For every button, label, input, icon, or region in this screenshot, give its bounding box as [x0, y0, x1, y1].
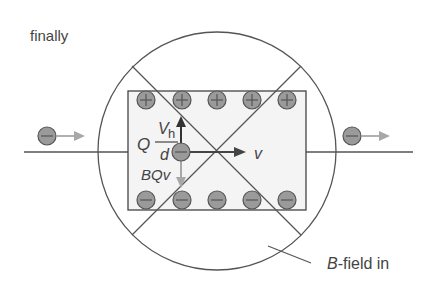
velocity-label: v: [254, 145, 263, 162]
negative-charge-icon: [137, 191, 155, 209]
positive-charge-icon: [243, 91, 261, 109]
magnetic-force-label: BQv: [141, 166, 172, 183]
central-electron-icon: [172, 143, 190, 161]
positive-charge-icon: [173, 91, 191, 109]
negative-charge-icon: [243, 191, 261, 209]
electric-force-denominator: d: [160, 146, 170, 163]
outgoing-arrowhead-icon: [379, 131, 390, 141]
field-label: B-field in: [327, 255, 389, 272]
title-label: finally: [30, 27, 69, 44]
electric-force-subscript: h: [168, 126, 175, 141]
negative-charge-icon: [173, 191, 191, 209]
incoming-arrowhead-icon: [74, 131, 85, 141]
electric-force-q: Q: [137, 135, 150, 154]
negative-charge-icon: [278, 191, 296, 209]
positive-charge-icon: [208, 91, 226, 109]
positive-charge-icon: [278, 91, 296, 109]
incoming-electron-icon: [38, 127, 56, 145]
negative-charge-icon: [208, 191, 226, 209]
positive-charge-icon: [137, 91, 155, 109]
hall-effect-diagram: finally Q V h d BQv v B-field in: [0, 0, 435, 287]
outgoing-electron-icon: [343, 127, 361, 145]
